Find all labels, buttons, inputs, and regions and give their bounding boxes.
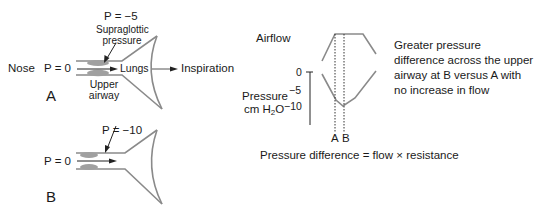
- nose-pressure-b: P = 0: [44, 155, 71, 168]
- nose-pressure-a: P = 0: [44, 62, 71, 75]
- y-tick-minus5: −5: [289, 84, 301, 97]
- airflow-label: Airflow: [256, 32, 291, 45]
- lungs-label: Lungs: [120, 63, 149, 74]
- flow-arrow-b-icon: [109, 159, 117, 164]
- pressure-label: Pressure cm H2O: [242, 90, 288, 119]
- supraglottic-label: Supraglottic pressure: [96, 24, 148, 46]
- annotation-text: Greater pressure difference across the u…: [394, 38, 534, 98]
- marker-b-label: B: [342, 132, 350, 145]
- panel-letter-b: B: [46, 190, 56, 203]
- airflow-curve: [322, 34, 376, 61]
- tissue-upper-b: [80, 152, 98, 158]
- supraglottic-label-line1: Supraglottic: [96, 24, 148, 35]
- pointer-arrow-b-icon: [105, 145, 110, 153]
- supraglottic-pressure-b: P = −10: [102, 124, 142, 137]
- marker-a-label: A: [331, 132, 339, 145]
- y-tick-0: 0: [296, 66, 302, 79]
- pressure-curve: [322, 71, 376, 106]
- equation-text: Pressure difference = flow × resistance: [260, 149, 459, 162]
- pressure-label-line1: Pressure: [242, 90, 288, 103]
- pressure-unit: cm H2O: [242, 103, 288, 119]
- tissue-lower-b: [80, 164, 98, 170]
- nose-label: Nose: [8, 62, 35, 75]
- supraglottic-pressure-a: P = −5: [104, 10, 138, 23]
- tissue-lower-a: [87, 70, 109, 76]
- panel-letter-a: A: [46, 89, 56, 102]
- unit-pre: cm H: [244, 103, 271, 115]
- upper-airway-label: Upper airway: [88, 79, 120, 101]
- inspiration-label: Inspiration: [181, 62, 234, 75]
- upper-airway-line2: airway: [88, 90, 120, 101]
- supraglottic-label-line2: pressure: [96, 35, 148, 46]
- flow-arrow-a-icon: [110, 67, 118, 72]
- unit-post: O: [275, 103, 284, 115]
- inspiration-arrow-icon: [170, 67, 178, 72]
